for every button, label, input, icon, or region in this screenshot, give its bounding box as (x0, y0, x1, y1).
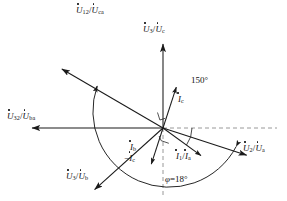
voltage-phasors (32, 44, 247, 190)
label-minus-ic: −Ic (124, 154, 135, 163)
label-u12-uca: U12/Uca (76, 6, 104, 15)
label-u32-uba: U32/Uba (7, 112, 35, 121)
phasor-diagram: U12/Uca U3/Uc U32/Uba U2/Ua U3/Ub Ic Ib … (0, 0, 287, 201)
label-angle-phi: φ=18° (165, 175, 188, 184)
right-angle-ic-mark (158, 113, 166, 121)
label-i1-ia: I1/Ia (176, 152, 191, 161)
vector-u12-uca (62, 69, 163, 128)
label-angle-150: 150° (191, 76, 208, 85)
label-u3-uc: U3/Uc (143, 25, 165, 34)
label-u1-ub: U3/Ub (66, 172, 88, 181)
vector-ic (163, 87, 176, 128)
label-ic: Ic (178, 95, 184, 104)
label-u2-ua: U2/Ua (243, 144, 265, 153)
dashed-reference-axes (163, 128, 277, 196)
label-ib: Ib (130, 143, 136, 152)
